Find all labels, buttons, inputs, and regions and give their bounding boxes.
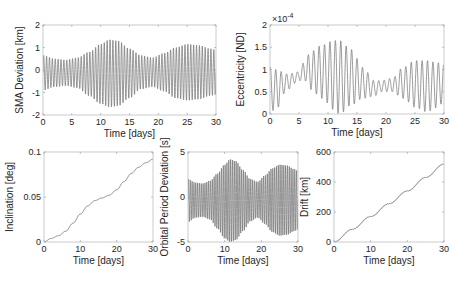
y-tick-label: 0 [35,65,40,75]
y-tick-label: 0.1 [28,147,41,157]
x-tick-label: 20 [153,117,163,127]
y-tick-label: 0 [326,237,331,247]
x-tick-label: 0 [41,244,46,254]
x-tick-label: 30 [293,244,303,254]
chart-eccentricity: 05101520253000.511.52Time [days]Eccentri… [235,12,449,138]
x-axis-label: Time [days] [104,128,156,139]
y-tick-label: 5 [180,147,185,157]
x-tick-label: 25 [182,117,192,127]
x-tick-label: 30 [148,244,158,254]
y-axis-label: Inclination [deg] [4,162,15,232]
y-tick-label: 2 [262,20,267,30]
x-tick-label: 20 [402,244,412,254]
chart-inclination: 010203000.050.1Time [days]Inclination [d… [4,147,158,266]
x-tick-label: 10 [366,244,376,254]
y-tick-label: 0.5 [254,87,267,97]
plot-area [44,152,153,242]
y-tick-label: 0 [262,109,267,119]
x-tick-label: 20 [256,244,266,254]
y-tick-label: 1.5 [254,42,267,52]
y-tick-label: 1 [35,43,40,53]
x-tick-label: 25 [410,116,420,126]
chart-sma: 051015202530-2-1012Time [days]SMA Deviat… [14,20,221,139]
y-tick-label: 0.05 [23,192,41,202]
x-tick-label: 15 [352,116,362,126]
x-tick-label: 0 [185,244,190,254]
y-axis-label: Orbital Period Deviation [s] [159,137,170,256]
y-tick-label: 0 [180,192,185,202]
y-tick-label: 400 [316,177,331,187]
x-tick-label: 30 [439,244,449,254]
y-tick-label: 600 [316,147,331,157]
y-tick-label: -2 [32,110,40,120]
y-scale-exponent: ×10-4 [272,12,294,24]
x-axis-label: Time [days] [331,127,383,138]
plot-area [270,25,444,114]
chart-orbital_period: 0102030-505Time [days]Orbital Period Dev… [159,137,303,266]
x-axis-label: Time [days] [217,255,269,266]
y-tick-label: -5 [177,237,185,247]
y-axis-label: SMA Deviation [km] [14,26,25,113]
y-tick-label: 1 [262,65,267,75]
y-axis-label: Eccentricity [ND] [235,32,246,106]
chart-drift: 01020300200400600Time [days]Drift [km] [299,147,449,266]
y-tick-label: 0 [36,237,41,247]
y-tick-label: -1 [32,88,40,98]
x-tick-label: 30 [439,116,449,126]
y-tick-label: 200 [316,207,331,217]
x-tick-label: 20 [112,244,122,254]
x-tick-label: 0 [40,117,45,127]
x-tick-label: 15 [124,117,134,127]
x-tick-label: 20 [381,116,391,126]
figure: 051015202530-2-1012Time [days]SMA Deviat… [0,0,466,282]
plot-area [334,152,444,242]
x-tick-label: 10 [96,117,106,127]
x-tick-label: 0 [267,116,272,126]
x-tick-label: 0 [331,244,336,254]
y-tick-label: 2 [35,20,40,30]
x-tick-label: 5 [296,116,301,126]
x-tick-label: 10 [75,244,85,254]
x-tick-label: 30 [211,117,221,127]
x-axis-label: Time [days] [363,255,415,266]
x-tick-label: 5 [69,117,74,127]
x-axis-label: Time [days] [73,255,125,266]
y-axis-label: Drift [km] [299,177,310,217]
x-tick-label: 10 [220,244,230,254]
x-tick-label: 10 [323,116,333,126]
